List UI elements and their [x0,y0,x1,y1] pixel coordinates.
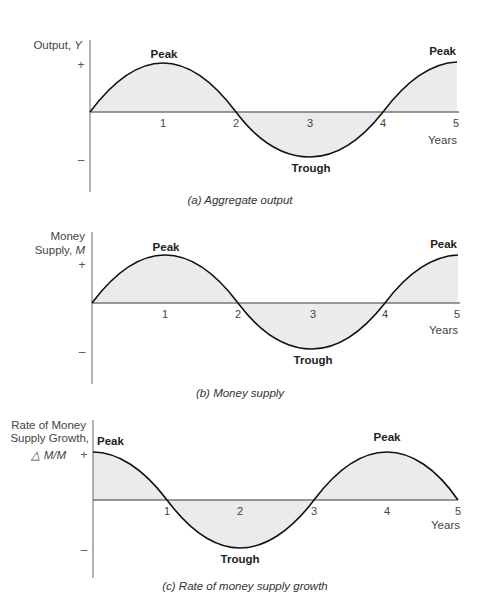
panel-b-minus-tick: – [79,345,86,359]
panel-c-caption: (c) Rate of money supply growth [162,580,328,592]
panel-c-x-tick-5: 5 [455,505,461,517]
panel-a-x-tick-4: 4 [380,117,386,129]
panel-a-peak-label-2: Peak [429,45,456,57]
panel-a-peak-label-1: Peak [151,48,178,60]
panel-a-minus-tick: – [78,153,85,167]
panel-c-y-axis-label-line2: Supply Growth, [10,432,89,444]
panel-b-peak-label-1: Peak [153,241,180,253]
panel-c-x-tick-4: 4 [384,505,390,517]
panel-b-x-tick-2: 2 [235,308,241,320]
panel-b-x-tick-4: 4 [382,308,388,320]
panel-c-plus-tick: + [80,448,87,462]
panel-b-x-axis-label: Years [429,324,458,336]
panel-a-y-axis-label: Output, Y [33,39,83,51]
panel-c-trough-label: Trough [221,553,260,565]
panel-a-shaded-area [90,62,457,157]
panel-c-y-axis-label-line1: Rate of Money [11,419,86,431]
panel-a-x-axis-label: Years [428,134,457,146]
panel-c-x-axis-label: Years [431,519,460,531]
panel-b-trough-label: Trough [294,354,333,366]
panel-b-x-tick-5: 5 [454,308,460,320]
panel-a-plus-tick: + [77,58,84,72]
panel-a-trough-label: Trough [292,162,331,174]
panel-b-y-axis-label-line1: Money [50,230,85,242]
panel-c-peak-label-2: Peak [374,431,401,443]
panel-b-y-axis-label-line2: Supply, M [35,244,86,256]
panel-b-plus-tick: + [78,258,85,272]
panel-b-peak-label-2: Peak [430,238,457,250]
panel-a-aggregate-output: Output, Y + – 1 2 3 4 5 Years Peak Troug… [33,39,459,206]
panel-a-x-tick-2: 2 [233,117,239,129]
panel-a-caption: (a) Aggregate output [187,194,293,206]
panel-c-x-tick-3: 3 [311,505,317,517]
panel-c-x-tick-2: 2 [237,505,243,517]
panel-b-x-tick-1: 1 [162,308,168,320]
panel-a-x-tick-1: 1 [160,117,166,129]
panel-c-minus-tick: – [81,543,88,557]
panel-a-x-tick-3: 3 [307,117,313,129]
panel-b-shaded-area [92,255,458,349]
panel-b-money-supply: Money Supply, M + – 1 2 3 4 5 Years Peak… [35,230,460,399]
panel-b-x-tick-3: 3 [310,308,316,320]
panel-c-y-axis-label-line3: △ M/M [30,449,66,461]
panel-c-money-supply-growth: Rate of Money Supply Growth, △ M/M + – 1… [10,419,461,592]
panel-c-x-tick-1: 1 [164,505,170,517]
figure-canvas: Output, Y + – 1 2 3 4 5 Years Peak Troug… [0,0,487,612]
panel-b-caption: (b) Money supply [196,387,285,399]
panel-a-x-tick-5: 5 [453,117,459,129]
panel-c-peak-label-1: Peak [97,435,124,447]
